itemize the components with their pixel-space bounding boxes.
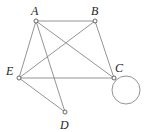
nodes (17, 19, 116, 114)
edge-a-e (19, 21, 36, 78)
node-a (34, 19, 38, 23)
node-label-c: C (115, 61, 124, 75)
node-e (17, 76, 21, 80)
node-label-e: E (5, 64, 14, 78)
node-b (93, 19, 97, 23)
loops (112, 76, 140, 104)
edge-b-e (19, 21, 95, 78)
edge-a-c (36, 21, 114, 78)
node-label-a: A (30, 4, 39, 18)
node-d (63, 110, 67, 114)
edge-e-d (19, 78, 65, 112)
edge-a-d (36, 21, 65, 112)
edges (19, 21, 114, 112)
node-label-d: D (59, 118, 69, 132)
node-label-b: B (91, 4, 99, 18)
node-c (112, 76, 116, 80)
edge-b-c (95, 21, 114, 78)
graph-diagram: ABCDE (0, 0, 145, 132)
self-loop-c (112, 76, 140, 104)
